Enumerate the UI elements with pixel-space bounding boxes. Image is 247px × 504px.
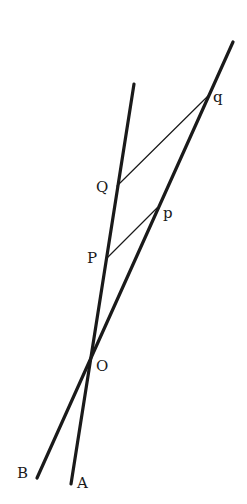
label-B: B [17, 464, 28, 482]
label-A: A [76, 474, 88, 492]
label-Q: Q [96, 178, 108, 196]
label-p: p [163, 204, 173, 222]
label-q: q [213, 88, 223, 106]
line-B [37, 42, 233, 478]
diagram-canvas: q Q p P O B A [0, 0, 247, 504]
label-O: O [96, 357, 108, 375]
label-P: P [87, 249, 97, 267]
